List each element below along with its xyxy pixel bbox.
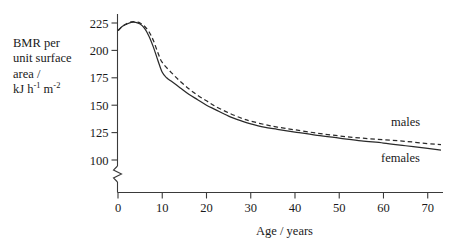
series-line-females <box>118 22 441 150</box>
x-axis-ticks: 010203040506070 <box>115 193 434 215</box>
x-tick-label: 30 <box>244 201 257 215</box>
y-axis-title: BMR per unit surface area / kJ h-1 m-2 <box>13 36 109 98</box>
unit-m: m <box>44 82 54 96</box>
x-tick-label: 0 <box>115 201 121 215</box>
y-tick-label: 225 <box>90 17 109 31</box>
bmr-age-chart: BMR per unit surface area / kJ h-1 m-2 1… <box>0 0 465 248</box>
x-tick-label: 60 <box>377 201 390 215</box>
unit-m-exponent: -2 <box>53 81 60 90</box>
y-axis-title-line-3: area / <box>13 67 109 82</box>
y-tick-label: 100 <box>90 154 109 168</box>
series-label-females: females <box>381 151 420 165</box>
unit-h-exponent: -1 <box>34 81 41 90</box>
y-axis-break-icon <box>114 166 122 182</box>
y-tick-label: 150 <box>90 99 109 113</box>
x-tick-label: 20 <box>200 201 213 215</box>
y-axis-title-line-2: unit surface <box>13 51 109 66</box>
x-axis-title: Age / years <box>256 224 313 238</box>
y-axis-title-line-1: BMR per <box>13 36 109 51</box>
unit-kj: kJ <box>13 82 24 96</box>
x-tick-label: 40 <box>289 201 302 215</box>
series-label-males: males <box>391 115 420 129</box>
x-tick-label: 10 <box>156 201 169 215</box>
x-tick-label: 70 <box>421 201 434 215</box>
x-tick-label: 50 <box>333 201 346 215</box>
y-axis-title-line-4: kJ h-1 m-2 <box>13 82 109 97</box>
y-tick-label: 125 <box>90 126 109 140</box>
